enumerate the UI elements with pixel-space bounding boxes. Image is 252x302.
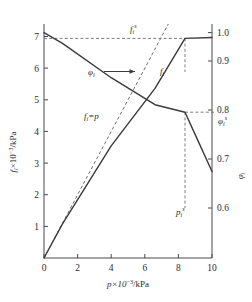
x-tick-label-6: 6 xyxy=(142,263,147,273)
y-axis-left-title: fi×10−3/kPa xyxy=(7,132,20,173)
phii-curve xyxy=(44,33,212,172)
figure-container: 1 2 3 4 5 6 7 0.6 0.7 0.8 0.9 1.0 xyxy=(0,0,252,302)
x-tick-label-4: 4 xyxy=(109,263,114,273)
fis-annotation-label: fis xyxy=(130,22,137,35)
right-tick-label-0-9: 0.9 xyxy=(217,56,229,66)
left-tick-label-7: 7 xyxy=(34,32,39,42)
left-tick-label-5: 5 xyxy=(34,95,39,105)
left-tick-label-3: 3 xyxy=(34,159,39,169)
y-axis-right-title: φi xyxy=(235,172,246,179)
pis-annotation-label: pis xyxy=(175,205,185,218)
x-tick-label-10: 10 xyxy=(207,263,217,273)
right-tick-label-1-0: 1.0 xyxy=(217,28,229,38)
x-axis-title: p×10−3/kPa xyxy=(106,278,149,289)
left-tick-label-2: 2 xyxy=(34,190,39,200)
x-tick-label-2: 2 xyxy=(75,263,80,273)
phiis-annotation-label: φis xyxy=(218,114,228,127)
fi-curve xyxy=(44,38,212,259)
chart-svg: 1 2 3 4 5 6 7 0.6 0.7 0.8 0.9 1.0 xyxy=(0,0,252,302)
right-tick-label-0-7: 0.7 xyxy=(217,154,229,164)
phii-annotation-label: φi xyxy=(88,67,95,78)
right-tick-label-0-8: 0.8 xyxy=(217,105,229,115)
bottom-axis-ticks: 0 2 4 6 8 10 xyxy=(42,254,217,273)
x-tick-label-8: 8 xyxy=(176,263,181,273)
left-tick-label-4: 4 xyxy=(34,127,39,137)
phii-axis-arrow xyxy=(104,69,135,74)
phii-arrow-head xyxy=(130,69,136,74)
left-tick-label-6: 6 xyxy=(34,64,39,74)
fi-annotation-label: fi xyxy=(160,66,165,77)
right-tick-label-0-6: 0.6 xyxy=(217,203,229,213)
x-tick-label-0: 0 xyxy=(42,263,47,273)
axes-group xyxy=(44,24,212,258)
left-axis-ticks: 1 2 3 4 5 6 7 xyxy=(34,32,48,232)
left-tick-label-1: 1 xyxy=(34,222,39,232)
fi-equals-p-annotation-label: fi=p xyxy=(84,111,99,122)
